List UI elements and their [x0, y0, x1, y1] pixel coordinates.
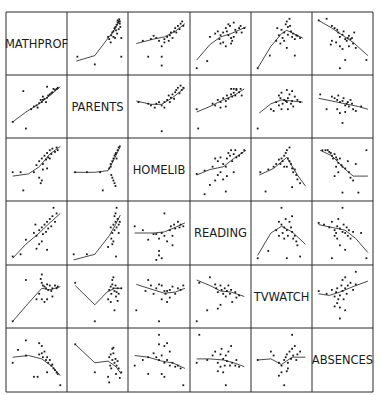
data-point — [147, 373, 149, 375]
panel-mathprof-vs-reading — [196, 22, 246, 69]
data-point — [180, 23, 182, 25]
smooth-line — [13, 287, 61, 322]
data-point — [358, 192, 360, 194]
data-point — [38, 293, 40, 295]
data-point — [33, 106, 35, 108]
data-point — [117, 149, 119, 151]
data-point — [37, 376, 39, 378]
data-point — [295, 174, 297, 176]
data-point — [330, 152, 332, 154]
data-point — [166, 36, 168, 38]
data-point — [120, 371, 122, 373]
panel-tvwatch-vs-parents — [74, 276, 122, 322]
data-point — [219, 38, 221, 40]
data-point — [120, 56, 122, 58]
smooth-line — [13, 356, 61, 376]
panel-reading-vs-parents — [73, 207, 121, 260]
data-point — [230, 37, 232, 39]
data-point — [44, 155, 46, 157]
data-point — [169, 297, 171, 299]
data-point — [334, 235, 336, 237]
data-point — [142, 359, 144, 361]
data-point — [114, 37, 116, 39]
data-point — [348, 45, 350, 47]
data-point — [198, 334, 200, 336]
data-point — [273, 110, 275, 112]
data-point — [38, 102, 40, 104]
data-point — [102, 190, 104, 192]
data-point — [41, 274, 43, 276]
data-point — [50, 290, 52, 292]
data-point — [295, 359, 297, 361]
data-point — [225, 296, 227, 298]
data-point — [114, 229, 116, 231]
data-point — [328, 227, 330, 229]
data-point — [49, 218, 51, 220]
data-point — [292, 238, 294, 240]
data-point — [56, 147, 58, 149]
data-point — [273, 166, 275, 168]
data-point — [289, 351, 291, 353]
panel-absences-vs-parents — [74, 343, 122, 383]
data-point — [355, 271, 357, 273]
data-point — [41, 101, 43, 103]
data-point — [56, 287, 58, 289]
data-point — [38, 160, 40, 162]
panel-homelib-vs-tvwatch — [259, 147, 305, 193]
data-point — [286, 257, 288, 259]
data-point — [155, 103, 157, 105]
data-point — [38, 177, 40, 179]
data-point — [283, 155, 285, 157]
data-point — [107, 376, 109, 378]
data-point — [273, 355, 275, 357]
data-point — [220, 43, 222, 45]
data-point — [283, 40, 285, 42]
data-point — [355, 110, 357, 112]
data-point — [54, 221, 56, 223]
data-point — [44, 286, 46, 288]
data-point — [230, 149, 232, 151]
data-point — [134, 225, 136, 227]
data-point — [161, 45, 163, 47]
data-point — [150, 285, 152, 287]
data-point — [282, 103, 284, 105]
data-point — [25, 128, 27, 130]
data-point — [355, 284, 357, 286]
data-point — [38, 342, 40, 344]
data-point — [346, 293, 348, 295]
panel-parents-vs-homelib — [136, 85, 185, 132]
data-point — [54, 369, 56, 371]
data-point — [222, 293, 224, 295]
data-point — [38, 354, 40, 356]
data-point — [278, 105, 280, 107]
data-point — [46, 97, 48, 99]
data-point — [164, 290, 166, 292]
data-point — [343, 224, 345, 226]
data-point — [238, 91, 240, 93]
data-point — [366, 257, 368, 259]
data-point — [347, 160, 349, 162]
data-point — [118, 224, 120, 226]
data-point — [285, 356, 287, 358]
data-point — [347, 101, 349, 103]
data-point — [46, 249, 48, 251]
data-point — [291, 90, 293, 92]
data-point — [270, 351, 272, 353]
data-point — [344, 232, 346, 234]
data-point — [215, 287, 217, 289]
data-point — [241, 152, 243, 154]
data-point — [115, 213, 117, 215]
data-point — [240, 25, 242, 27]
data-point — [180, 368, 182, 370]
data-point — [289, 18, 291, 20]
data-point — [42, 169, 44, 171]
panel-absences-vs-reading — [196, 334, 245, 386]
data-point — [30, 108, 32, 110]
data-point — [17, 349, 19, 351]
data-point — [114, 155, 116, 157]
data-point — [117, 287, 119, 289]
data-point — [209, 36, 211, 38]
data-point — [57, 373, 59, 375]
data-point — [158, 40, 160, 42]
data-point — [113, 158, 115, 160]
